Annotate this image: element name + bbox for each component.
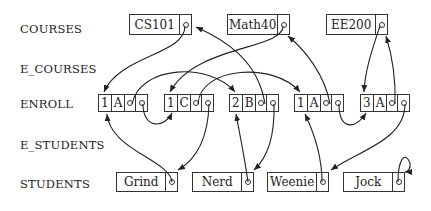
arrow-cs101-to-enroll xyxy=(104,26,185,92)
arrow-nerd-to-enroll xyxy=(236,114,248,182)
arrow-enroll-course-next xyxy=(132,72,235,104)
arrow-grind-to-enroll xyxy=(107,114,172,182)
arrow-math40-to-enroll xyxy=(170,26,283,92)
arrow-enroll-student-next xyxy=(254,104,274,170)
arrow-weenie-to-enroll xyxy=(305,114,322,182)
arrow-enroll-course-next xyxy=(196,27,265,104)
pointer-arrows xyxy=(0,0,431,211)
arrow-enroll-student-next xyxy=(178,104,209,170)
arrow-enroll-student-next xyxy=(143,104,172,124)
arrow-enroll-course-next xyxy=(386,36,395,104)
arrow-jock-self-loop xyxy=(398,157,410,182)
arrow-ee200-to-enroll xyxy=(364,26,380,92)
arrow-enroll-course-next xyxy=(288,36,330,104)
arrow-enroll-student-next xyxy=(331,104,405,170)
arrow-enroll-student-next xyxy=(339,104,366,125)
